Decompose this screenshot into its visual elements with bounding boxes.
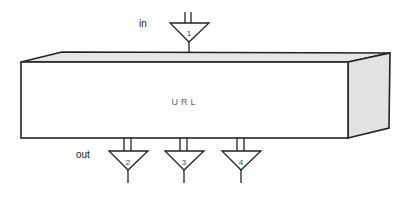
block-side-face (348, 53, 390, 138)
block-top-face (21, 52, 390, 62)
input-port-1[interactable]: 1 (170, 12, 209, 52)
block-label: URL (171, 97, 198, 107)
output-port-3[interactable]: 3 (165, 138, 204, 183)
port-number: 1 (187, 29, 192, 38)
output-port-2[interactable]: 2 (109, 138, 148, 183)
output-port-4[interactable]: 4 (222, 138, 261, 183)
url-block-diagram: URL 1 in 2 3 4 out (0, 0, 408, 198)
output-label: out (76, 149, 90, 160)
input-label: in (139, 18, 147, 29)
port-number: 2 (126, 158, 131, 167)
port-number: 4 (239, 158, 244, 167)
port-number: 3 (182, 158, 187, 167)
